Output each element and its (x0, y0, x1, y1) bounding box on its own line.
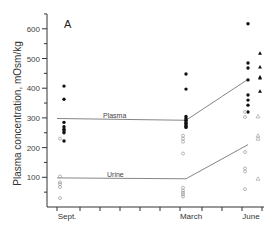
y-tick-label: 600 (18, 24, 40, 33)
x-tick-sept: Sept. (58, 212, 77, 221)
data-point-open (244, 167, 247, 170)
y-tick-label: 500 (18, 54, 40, 63)
data-point-open (182, 152, 185, 155)
data-point-filled (246, 93, 249, 96)
y-tick-label: 100 (18, 173, 40, 182)
data-point-triangle-open (256, 114, 260, 118)
urine-line-label: Urine (107, 171, 124, 178)
y-tick-label: 200 (18, 143, 40, 152)
data-point-open (59, 137, 62, 140)
x-tick-march: March (180, 212, 202, 221)
data-point-filled (184, 126, 187, 129)
x-tick-june: June (242, 212, 259, 221)
data-point-open (244, 170, 247, 173)
data-point-open (59, 197, 62, 200)
data-point-open (182, 134, 185, 137)
data-point-filled (246, 22, 249, 25)
y-tick-label: 300 (18, 113, 40, 122)
data-point-filled (246, 78, 249, 81)
data-point-filled (62, 121, 65, 124)
data-point-open (182, 137, 185, 140)
data-point-open (59, 186, 62, 189)
data-point-triangle-open (256, 177, 260, 181)
scatter-plot (0, 0, 276, 239)
data-point-filled (184, 87, 187, 90)
data-point-open (182, 195, 185, 198)
data-point-open (244, 151, 247, 154)
panel-label: A (64, 18, 71, 30)
plasma-line (57, 79, 248, 120)
plasma-line-label: Plasma (103, 112, 126, 119)
data-point-open (59, 175, 62, 178)
data-point-filled (246, 66, 249, 69)
data-point-filled (62, 139, 65, 142)
data-point-filled (62, 84, 65, 87)
data-point-open (182, 186, 185, 189)
data-point-open (182, 140, 185, 143)
data-point-triangle (258, 65, 262, 69)
urine-line (57, 145, 248, 179)
data-point-open (244, 188, 247, 191)
data-point-triangle (258, 89, 262, 93)
data-point-open (244, 116, 247, 119)
data-point-filled (246, 98, 249, 101)
data-point-filled (62, 131, 65, 134)
data-point-filled (246, 103, 249, 106)
y-tick-label: 400 (18, 84, 40, 93)
chart-area: Plasma concentration, mOsm/kg A Plasma U… (0, 0, 276, 239)
data-point-open (244, 110, 247, 113)
data-point-filled (62, 97, 65, 100)
data-point-triangle (258, 51, 262, 55)
data-point-filled (184, 72, 187, 75)
data-point-filled (246, 61, 249, 64)
